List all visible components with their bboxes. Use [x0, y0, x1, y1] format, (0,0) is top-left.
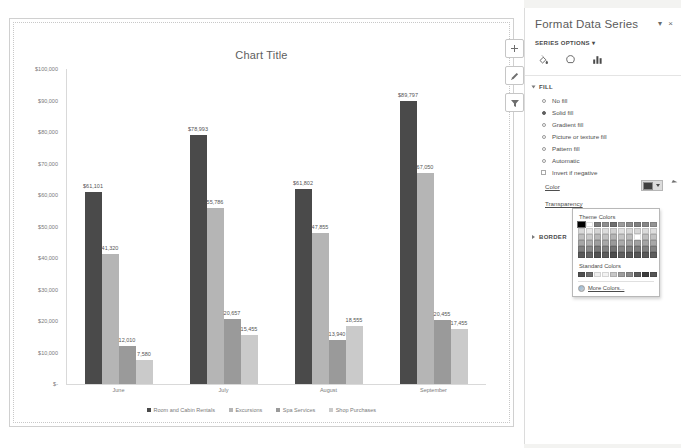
color-swatch[interactable]	[626, 272, 633, 277]
color-swatch[interactable]	[578, 272, 585, 277]
color-swatch[interactable]	[610, 234, 617, 239]
bar[interactable]: 20,657	[224, 319, 241, 384]
color-swatch[interactable]	[618, 222, 625, 227]
color-swatch[interactable]	[634, 252, 641, 257]
color-swatch[interactable]	[618, 272, 625, 277]
chart-elements-button[interactable]	[505, 39, 524, 58]
color-field-row[interactable]: Color	[525, 178, 681, 195]
color-swatch[interactable]	[578, 240, 585, 245]
chevron-down-icon[interactable]	[656, 184, 660, 187]
bar[interactable]: 47,855	[312, 233, 329, 384]
series-options-icon[interactable]	[591, 53, 604, 67]
radio-icon[interactable]	[542, 135, 546, 139]
color-swatch[interactable]	[626, 252, 633, 257]
legend-item[interactable]: Shop Purchases	[329, 407, 376, 413]
color-swatch[interactable]	[594, 234, 601, 239]
color-swatch[interactable]	[650, 252, 657, 257]
fill-and-line-icon[interactable]	[537, 53, 550, 67]
bar[interactable]: 41,320	[102, 254, 119, 384]
color-swatch[interactable]	[602, 234, 609, 239]
color-swatch[interactable]	[610, 246, 617, 251]
color-swatch[interactable]	[642, 240, 649, 245]
color-swatch[interactable]	[610, 240, 617, 245]
legend-item[interactable]: Excursions	[229, 407, 262, 413]
color-swatch[interactable]	[634, 246, 641, 251]
color-swatch[interactable]	[618, 228, 625, 233]
color-swatch[interactable]	[642, 228, 649, 233]
color-swatch[interactable]	[594, 240, 601, 245]
fill-option-solid-fill[interactable]: Solid fill	[525, 106, 681, 118]
bar[interactable]: 17,455	[451, 329, 468, 384]
color-swatch[interactable]	[586, 234, 593, 239]
color-swatch[interactable]	[586, 246, 593, 251]
color-swatch[interactable]	[602, 228, 609, 233]
color-swatch[interactable]	[650, 240, 657, 245]
bar[interactable]: 15,455	[241, 335, 258, 384]
color-swatch[interactable]	[650, 272, 657, 277]
fill-option-picture-or-texture-fill[interactable]: Picture or texture fill	[525, 130, 681, 142]
radio-icon[interactable]	[542, 159, 546, 163]
bar[interactable]: 12,010	[119, 346, 136, 384]
color-swatch[interactable]	[602, 240, 609, 245]
color-swatch[interactable]	[610, 272, 617, 277]
series-options-dropdown[interactable]: SERIES OPTIONS ▾	[525, 32, 681, 50]
color-swatch[interactable]	[610, 228, 617, 233]
color-swatch[interactable]	[602, 222, 609, 227]
more-colors-item[interactable]: More Colors...	[578, 281, 654, 292]
color-swatch[interactable]	[650, 246, 657, 251]
bar[interactable]: $61,802	[295, 189, 312, 384]
color-swatch[interactable]	[586, 222, 593, 227]
bar[interactable]: 67,050	[417, 173, 434, 384]
theme-colors-grid[interactable]	[578, 228, 654, 257]
radio-icon[interactable]	[542, 111, 546, 115]
close-icon[interactable]: ×	[668, 20, 673, 28]
checkbox-icon[interactable]	[541, 170, 546, 175]
color-swatch[interactable]	[634, 272, 641, 277]
color-swatch[interactable]	[618, 234, 625, 239]
fill-option-pattern-fill[interactable]: Pattern fill	[525, 142, 681, 154]
color-swatch[interactable]	[634, 222, 641, 227]
bar[interactable]: 20,455	[434, 320, 451, 384]
color-swatch[interactable]	[602, 246, 609, 251]
chart-styles-button[interactable]	[505, 66, 524, 85]
standard-colors-row[interactable]	[578, 272, 654, 277]
bar[interactable]: 7,580	[136, 360, 153, 384]
color-swatch[interactable]	[578, 222, 585, 227]
color-swatch[interactable]	[578, 246, 585, 251]
bar[interactable]: 18,555	[346, 326, 363, 384]
color-dropdown-button[interactable]	[641, 180, 663, 191]
bar-group[interactable]: $78,99355,78620,65715,455	[171, 69, 276, 384]
color-swatch[interactable]	[650, 234, 657, 239]
color-swatch[interactable]	[634, 240, 641, 245]
fill-option-automatic[interactable]: Automatic	[525, 154, 681, 166]
color-swatch[interactable]	[626, 222, 633, 227]
color-swatch[interactable]	[594, 246, 601, 251]
invert-if-negative-option[interactable]: Invert if negative	[525, 166, 681, 178]
color-swatch[interactable]	[594, 228, 601, 233]
color-swatch[interactable]	[626, 246, 633, 251]
fill-option-gradient-fill[interactable]: Gradient fill	[525, 118, 681, 130]
color-swatch[interactable]	[594, 222, 601, 227]
format-data-series-pane[interactable]: Format Data Series ▾ × SERIES OPTIONS ▾	[524, 8, 681, 444]
color-picker-dropdown[interactable]: Theme Colors Standard Colors More Colors…	[572, 208, 660, 297]
color-swatch[interactable]	[586, 228, 593, 233]
color-swatch[interactable]	[634, 234, 641, 239]
x-axis-labels[interactable]: JuneJulyAugustSeptember	[66, 387, 486, 401]
color-swatch[interactable]	[578, 234, 585, 239]
bar[interactable]: $61,101	[85, 192, 102, 384]
fill-option-no-fill[interactable]: No fill	[525, 94, 681, 106]
color-swatch[interactable]	[594, 252, 601, 257]
color-swatch[interactable]	[642, 252, 649, 257]
bar-group[interactable]: $61,80247,85513,94018,555	[276, 69, 381, 384]
color-swatch[interactable]	[586, 272, 593, 277]
color-swatch[interactable]	[618, 240, 625, 245]
chart-legend[interactable]: Room and Cabin RentalsExcursionsSpa Serv…	[10, 407, 513, 413]
color-swatch[interactable]	[650, 222, 657, 227]
color-swatch[interactable]	[610, 222, 617, 227]
chevron-down-icon[interactable]: ▾	[592, 40, 595, 46]
color-swatch[interactable]	[602, 252, 609, 257]
color-swatch[interactable]	[586, 240, 593, 245]
color-swatch[interactable]	[642, 272, 649, 277]
theme-colors-top-row[interactable]	[578, 222, 654, 227]
worksheet-area[interactable]: Chart Title $100,000$90,000$80,000$70,00…	[0, 0, 524, 448]
